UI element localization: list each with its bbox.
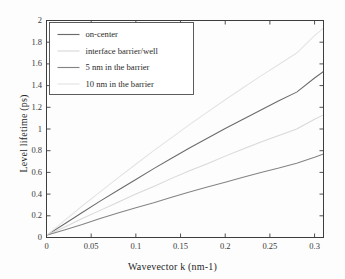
series-line-0 [47, 72, 324, 236]
x-tick-label-4: 0.2 [207, 242, 243, 251]
x-tick-label-6: 0.3 [297, 242, 333, 251]
y-tick-label-0: 0 [14, 233, 42, 242]
y-tick-label-1: 0.2 [14, 211, 42, 220]
legend-label-0: on-center [86, 30, 118, 39]
x-tick-label-5: 0.25 [252, 242, 288, 251]
y-tick-label-9: 1.8 [14, 38, 42, 47]
chart-plot [0, 0, 345, 279]
x-axis-title: Wavevector k (nm-1) [0, 261, 345, 272]
legend-label-2: 5 nm in the barrier [86, 63, 150, 72]
x-tick-label-3: 0.15 [163, 242, 199, 251]
legend-label-1: interface barrier/well [86, 47, 158, 56]
legend-label-3: 10 nm in the barrier [86, 80, 154, 89]
x-tick-label-2: 0.1 [118, 242, 154, 251]
x-tick-label-0: 0 [29, 242, 65, 251]
series-line-1 [47, 115, 324, 235]
series-line-2 [47, 154, 324, 235]
y-tick-label-10: 2 [14, 16, 42, 25]
figure-canvas: 00.20.40.60.811.21.41.61.82 00.050.10.15… [0, 0, 345, 279]
x-tick-label-1: 0.05 [73, 242, 109, 251]
y-axis-title: Level lifetime (ps) [18, 59, 29, 209]
